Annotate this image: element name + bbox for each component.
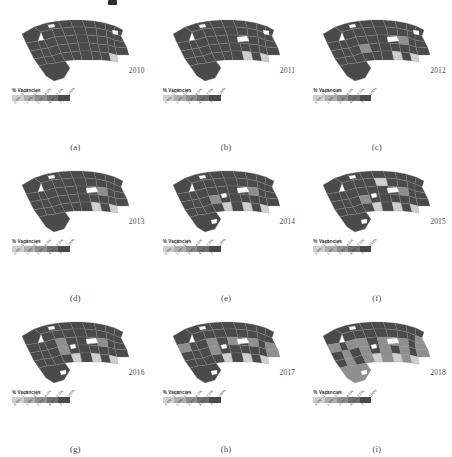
panel-tag: (g) bbox=[0, 444, 151, 454]
choropleth-map-2017 bbox=[159, 308, 291, 392]
year-label: 2013 bbox=[129, 217, 145, 226]
map-panel-2015: 2015% Vacancies0.0% - 1.0%1.0% - 2.0%2.0… bbox=[301, 155, 452, 306]
map-panel-2016: 2016% Vacancies0.0% - 1.0%1.0% - 2.0%2.0… bbox=[0, 306, 151, 457]
map-panel-2011: 2011% Vacancies0.0% - 1.0%1.0% - 2.0%2.0… bbox=[151, 4, 302, 155]
map-panel-2014: 2014% Vacancies0.0% - 1.0%1.0% - 2.0%2.0… bbox=[151, 155, 302, 306]
choropleth-map-2016 bbox=[8, 308, 140, 392]
legend-2015: % Vacancies0.0% - 1.0%1.0% - 2.0%2.0% - … bbox=[309, 239, 429, 270]
choropleth-map-2010 bbox=[8, 6, 140, 90]
figure-canvas: 2010% Vacancies0.0% - 1.0%1.0% - 2.0%2.0… bbox=[0, 0, 452, 457]
colorbar-tick-labels: 0.0% - 1.0%1.0% - 2.0%2.0% - 4.0%4.0% - … bbox=[10, 252, 80, 270]
legend-2011: % Vacancies0.0% - 1.0%1.0% - 2.0%2.0% - … bbox=[159, 88, 279, 119]
panel-tag: (h) bbox=[151, 444, 302, 454]
panel-tag: (e) bbox=[151, 293, 302, 303]
colorbar-tick-labels: 0.0% - 1.0%1.0% - 2.0%2.0% - 4.0%4.0% - … bbox=[161, 403, 231, 421]
legend-2014: % Vacancies0.0% - 1.0%1.0% - 2.0%2.0% - … bbox=[159, 239, 279, 270]
colorbar-tick-labels: 0.0% - 1.0%1.0% - 2.0%2.0% - 4.0%4.0% - … bbox=[161, 252, 231, 270]
colorbar-tick-labels: 0.0% - 1.0%1.0% - 2.0%2.0% - 4.0%4.0% - … bbox=[311, 252, 381, 270]
year-label: 2018 bbox=[430, 368, 446, 377]
colorbar-tick-labels: 0.0% - 1.0%1.0% - 2.0%2.0% - 4.0%4.0% - … bbox=[311, 101, 381, 119]
panel-tag: (f) bbox=[301, 293, 452, 303]
panel-tag: (d) bbox=[0, 293, 151, 303]
choropleth-map-2013 bbox=[8, 157, 140, 241]
panel-grid: 2010% Vacancies0.0% - 1.0%1.0% - 2.0%2.0… bbox=[0, 4, 452, 457]
choropleth-map-2011 bbox=[159, 6, 291, 90]
year-label: 2017 bbox=[280, 368, 296, 377]
year-label: 2010 bbox=[129, 66, 145, 75]
panel-tag: (c) bbox=[301, 142, 452, 152]
colorbar-tick-labels: 0.0% - 1.0%1.0% - 2.0%2.0% - 4.0%4.0% - … bbox=[161, 101, 231, 119]
colorbar-tick-labels: 0.0% - 1.0%1.0% - 2.0%2.0% - 4.0%4.0% - … bbox=[10, 101, 80, 119]
map-panel-2012: 2012% Vacancies0.0% - 1.0%1.0% - 2.0%2.0… bbox=[301, 4, 452, 155]
year-label: 2015 bbox=[430, 217, 446, 226]
map-panel-2010: 2010% Vacancies0.0% - 1.0%1.0% - 2.0%2.0… bbox=[0, 4, 151, 155]
year-label: 2011 bbox=[280, 66, 296, 75]
colorbar-tick-labels: 0.0% - 1.0%1.0% - 2.0%2.0% - 4.0%4.0% - … bbox=[311, 403, 381, 421]
choropleth-map-2014 bbox=[159, 157, 291, 241]
year-label: 2012 bbox=[430, 66, 446, 75]
legend-2017: % Vacancies0.0% - 1.0%1.0% - 2.0%2.0% - … bbox=[159, 390, 279, 421]
choropleth-map-2018 bbox=[309, 308, 441, 392]
legend-2010: % Vacancies0.0% - 1.0%1.0% - 2.0%2.0% - … bbox=[8, 88, 128, 119]
map-panel-2013: 2013% Vacancies0.0% - 1.0%1.0% - 2.0%2.0… bbox=[0, 155, 151, 306]
map-panel-2018: 2018% Vacancies0.0% - 1.0%1.0% - 2.0%2.0… bbox=[301, 306, 452, 457]
choropleth-map-2015 bbox=[309, 157, 441, 241]
panel-tag: (i) bbox=[301, 444, 452, 454]
map-panel-2017: 2017% Vacancies0.0% - 1.0%1.0% - 2.0%2.0… bbox=[151, 306, 302, 457]
colorbar-tick-labels: 0.0% - 1.0%1.0% - 2.0%2.0% - 4.0%4.0% - … bbox=[10, 403, 80, 421]
legend-2016: % Vacancies0.0% - 1.0%1.0% - 2.0%2.0% - … bbox=[8, 390, 128, 421]
choropleth-map-2012 bbox=[309, 6, 441, 90]
legend-2013: % Vacancies0.0% - 1.0%1.0% - 2.0%2.0% - … bbox=[8, 239, 128, 270]
panel-tag: (a) bbox=[0, 142, 151, 152]
legend-2018: % Vacancies0.0% - 1.0%1.0% - 2.0%2.0% - … bbox=[309, 390, 429, 421]
legend-2012: % Vacancies0.0% - 1.0%1.0% - 2.0%2.0% - … bbox=[309, 88, 429, 119]
year-label: 2016 bbox=[129, 368, 145, 377]
year-label: 2014 bbox=[280, 217, 296, 226]
panel-tag: (b) bbox=[151, 142, 302, 152]
